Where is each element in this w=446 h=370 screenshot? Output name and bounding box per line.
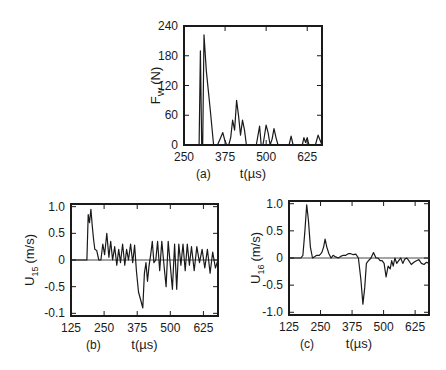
panel-a-xlabel: t(µs) <box>240 166 266 181</box>
ytick-label: -0.5 <box>262 278 283 292</box>
ytick-label: -1.0 <box>262 305 283 319</box>
ytick-label: 0.5 <box>48 226 65 240</box>
panel-b-xtick-labels: 125250375500625 <box>61 321 214 335</box>
xtick-label: 250 <box>311 320 331 334</box>
panel-a-xtick-labels: 250375500625 <box>174 150 318 164</box>
panel-c-data-line <box>289 205 429 304</box>
panel-b-xlabel: t(µs) <box>131 337 157 352</box>
ytick-label: 180 <box>158 49 178 63</box>
ytick-label: 240 <box>158 19 178 33</box>
ytick-label: 0 <box>58 253 65 267</box>
panel-c-xlabel: t(µs) <box>346 336 372 351</box>
ytick-label: -0.5 <box>44 280 65 294</box>
ytick-label: 1.0 <box>266 197 283 211</box>
panel-c-xtick-labels: 125250375500625 <box>279 320 425 334</box>
panel-b-u15-chart: 1.00.50-0.5-0.1 125250375500625 U15(m/s)… <box>22 200 218 352</box>
panel-b-ylabel: U15(m/s) <box>22 234 40 286</box>
xtick-label: 500 <box>160 321 180 335</box>
xtick-label: 250 <box>94 321 114 335</box>
xtick-label: 375 <box>342 320 362 334</box>
ytick-label: 0 <box>276 251 283 265</box>
figure-canvas: 060120180240 250375500625 FW(N) (a) t(µs… <box>0 0 446 370</box>
ytick-label: 60 <box>165 108 179 122</box>
xtick-label: 125 <box>61 321 81 335</box>
figure: 060120180240 250375500625 FW(N) (a) t(µs… <box>0 0 446 370</box>
ytick-label: 0.5 <box>266 224 283 238</box>
panel-b-ytick-labels: 1.00.50-0.5-0.1 <box>44 200 65 321</box>
xtick-label: 625 <box>193 321 213 335</box>
panel-a-label: (a) <box>196 167 211 181</box>
xtick-label: 125 <box>279 320 299 334</box>
panel-b-label: (b) <box>86 338 101 352</box>
panel-c-ylabel: U16(m/s) <box>248 232 266 284</box>
panel-a-force-chart: 060120180240 250375500625 FW(N) (a) t(µs… <box>148 19 322 181</box>
xtick-label: 625 <box>405 320 425 334</box>
panel-c-u16-chart: 1.00.50-0.5-1.0 125250375500625 U16(m/s)… <box>248 197 429 351</box>
xtick-label: 250 <box>174 150 194 164</box>
ytick-label: 1.0 <box>48 200 65 214</box>
xtick-label: 375 <box>215 150 235 164</box>
xtick-label: 625 <box>297 150 317 164</box>
panel-b-data-line <box>71 209 218 308</box>
ytick-label: -0.1 <box>44 306 65 320</box>
xtick-label: 375 <box>127 321 147 335</box>
xtick-label: 500 <box>256 150 276 164</box>
panel-a-data-line <box>184 35 322 145</box>
xtick-label: 500 <box>374 320 394 334</box>
panel-c-label: (c) <box>300 337 314 351</box>
panel-c-ytick-labels: 1.00.50-0.5-1.0 <box>262 197 283 320</box>
